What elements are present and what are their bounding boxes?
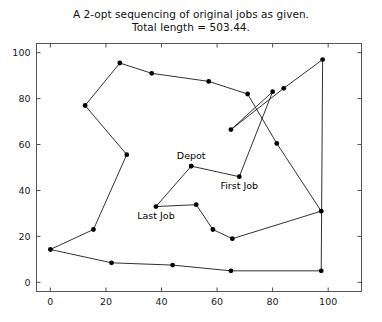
tour-point-marker xyxy=(149,71,154,76)
tour-point-marker xyxy=(124,152,129,157)
tour-point-marker xyxy=(117,61,122,66)
tour-point-marker xyxy=(229,268,234,273)
figure-canvas: A 2-opt sequencing of original jobs as g… xyxy=(0,0,382,322)
y-tick-label: 80 xyxy=(18,93,30,104)
y-tick-label: 0 xyxy=(24,277,30,288)
x-tick-label: 100 xyxy=(319,296,337,307)
tour-point-marker xyxy=(170,263,175,268)
tour-point-marker xyxy=(274,141,279,146)
tour-point-marker xyxy=(281,86,286,91)
tour-point-marker xyxy=(48,247,53,252)
y-tick-label: 40 xyxy=(18,185,30,196)
tour-point-marker xyxy=(237,174,242,179)
tour-point-marker xyxy=(109,260,114,265)
tour-point-marker xyxy=(83,103,88,108)
x-tick-label: 20 xyxy=(100,296,112,307)
x-tick-label: 40 xyxy=(155,296,167,307)
x-tick-label: 0 xyxy=(47,296,53,307)
tour-point-marker xyxy=(320,57,325,62)
tour-point-marker xyxy=(229,127,234,132)
y-tick-label: 60 xyxy=(18,139,30,150)
scatter-line-plot: 020406080100 020406080100 DepotFirst Job… xyxy=(0,0,382,322)
y-tick-label: 100 xyxy=(12,47,30,58)
tour-point-marker xyxy=(319,209,324,214)
tour-point-marker xyxy=(270,89,275,94)
x-tick-label: 60 xyxy=(211,296,223,307)
tour-point-marker xyxy=(189,164,194,169)
tour-point-marker xyxy=(319,268,324,273)
tour-point-marker xyxy=(230,236,235,241)
x-tick-label: 80 xyxy=(267,296,279,307)
tour-point-marker xyxy=(206,79,211,84)
tour-point-marker xyxy=(194,202,199,207)
tour-point-marker xyxy=(245,92,250,97)
y-tick-label: 20 xyxy=(18,231,30,242)
annotation-label: Depot xyxy=(177,150,206,161)
annotation-label: First Job xyxy=(220,180,258,191)
tour-point-marker xyxy=(91,227,96,232)
tour-point-marker xyxy=(154,204,159,209)
annotation-label: Last Job xyxy=(137,210,174,221)
tour-point-marker xyxy=(210,227,215,232)
